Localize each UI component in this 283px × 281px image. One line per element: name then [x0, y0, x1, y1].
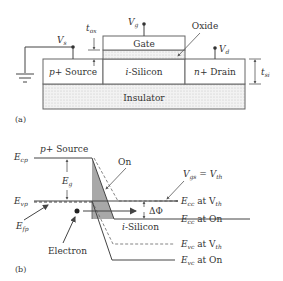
delta-phi-label: ΔΦ: [149, 206, 163, 216]
source-band-label: p+ Source: [40, 144, 88, 154]
tfet-diagram: Insulator p+ Source i-Silicon n+ Drain G…: [0, 0, 283, 281]
vg-terminal-dot: [142, 22, 146, 26]
evc-vth-label: Evc at Vth: [180, 239, 222, 250]
electron-label: Electron: [48, 246, 87, 256]
panel-a: Insulator p+ Source i-Silicon n+ Drain G…: [15, 17, 270, 124]
ecp-label: Ecp: [13, 152, 28, 164]
ecc-on-line: [92, 158, 250, 219]
source-label: p+ Source: [49, 67, 97, 77]
vs-terminal-dot: [71, 45, 75, 49]
oxide-layer: [103, 50, 185, 59]
efp-label: Efp: [15, 221, 29, 233]
insulator-label: Insulator: [123, 93, 165, 103]
tox-label: tox: [86, 23, 97, 34]
efp-pointer-arrow: [24, 205, 48, 220]
electron-dot: [75, 209, 80, 214]
ecc-vth-dashed: [94, 158, 178, 201]
ecc-on-label: Ecc at On: [180, 214, 222, 225]
channel-band-label: i-Silicon: [122, 222, 159, 232]
tsi-label: tsi: [261, 67, 270, 78]
eg-label: Eg: [61, 176, 73, 188]
channel-label: i-Silicon: [126, 67, 163, 77]
panel-b: Ecp p+ Source Evp Efp Eg On Electron: [13, 144, 250, 274]
gate-label: Gate: [133, 39, 155, 49]
vd-terminal-dot: [213, 46, 217, 50]
evc-on-label: Evc at On: [180, 255, 222, 266]
ground-icon: [16, 74, 34, 82]
evp-label: Evp: [13, 196, 28, 208]
oxide-label: Oxide: [192, 21, 218, 31]
panel-a-caption: (a): [15, 115, 26, 124]
ecc-vth-label: Ecc at Vth: [180, 196, 222, 207]
vgs-vth-label: Vgs = Vth: [183, 169, 223, 181]
drain-label: n+ Drain: [194, 67, 236, 77]
on-label: On: [118, 157, 131, 167]
on-pointer-arrow: [106, 168, 126, 189]
electron-pointer-arrow: [63, 217, 75, 243]
vd-label: Vd: [219, 44, 230, 55]
vs-label: Vs: [57, 35, 67, 46]
vg-label: Vg: [128, 17, 139, 29]
panel-b-caption: (b): [15, 265, 26, 274]
